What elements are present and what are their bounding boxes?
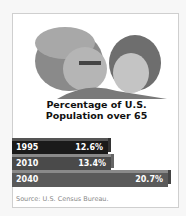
- bar-value: 13.4%: [78, 157, 106, 171]
- bar-value: 12.6%: [75, 141, 103, 155]
- chart-card: Percentage of U.S. Population over 65 19…: [12, 13, 179, 208]
- bar-2010: 2010 13.4%: [12, 157, 111, 171]
- bar-value: 20.7%: [135, 173, 163, 187]
- chart-title: Percentage of U.S. Population over 65: [13, 99, 180, 121]
- bar-year: 1995: [16, 141, 38, 155]
- title-line-2: Population over 65: [13, 110, 180, 121]
- title-line-1: Percentage of U.S.: [13, 99, 180, 110]
- grandmother-child-photo: [27, 21, 167, 99]
- bar-year: 2010: [16, 157, 38, 171]
- bar-year: 2040: [16, 173, 38, 187]
- source-note: Source: U.S. Census Bureau.: [16, 195, 109, 203]
- bar-1995: 1995 12.6%: [12, 141, 108, 155]
- bar-2040: 2040 20.7%: [12, 173, 168, 187]
